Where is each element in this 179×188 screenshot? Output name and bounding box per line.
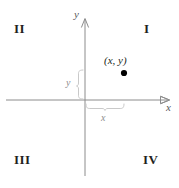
- coordinate-plane-diagram: II I III IV y x y x (x, y): [0, 0, 179, 188]
- point-coordinate-label: (x, y): [104, 54, 127, 66]
- quadrant-label-i: I: [144, 21, 149, 37]
- y-distance-brace: [77, 70, 84, 99]
- y-axis-label: y: [74, 8, 79, 20]
- x-axis-label: x: [166, 101, 171, 113]
- quadrant-label-iv: IV: [143, 152, 158, 168]
- quadrant-label-iii: III: [14, 152, 30, 168]
- plotted-point: [121, 70, 127, 76]
- y-distance-label: y: [66, 77, 70, 88]
- quadrant-label-ii: II: [14, 21, 25, 37]
- x-distance-label: x: [101, 112, 105, 123]
- x-distance-brace: [86, 104, 124, 111]
